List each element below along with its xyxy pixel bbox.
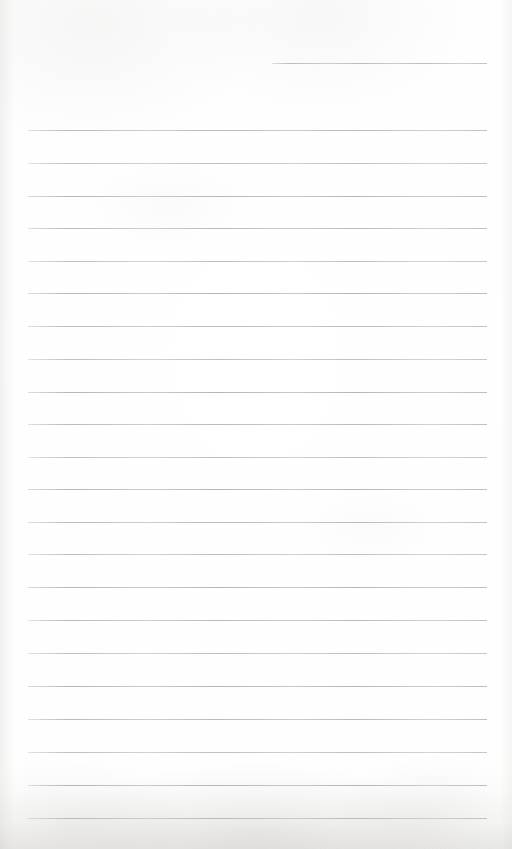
ruling-line: [28, 818, 487, 819]
scanned-page: [0, 0, 512, 849]
ruling-line: [28, 163, 487, 164]
ruling-line: [28, 719, 487, 720]
ruling-line: [28, 686, 487, 687]
ruling-line: [28, 326, 487, 327]
ruling-line: [28, 228, 487, 229]
ruling-line: [28, 522, 487, 523]
ruling-line: [28, 752, 487, 753]
ruling-line: [28, 785, 487, 786]
ruling-line: [28, 261, 487, 262]
ruling-line: [28, 424, 487, 425]
ruling-line: [28, 620, 487, 621]
ruling-line: [28, 359, 487, 360]
ruling-line: [28, 587, 487, 588]
ruling-line: [272, 63, 487, 64]
ruling-line: [28, 130, 487, 131]
ruling-line: [28, 489, 487, 490]
ruling-line: [28, 653, 487, 654]
ruling-line: [28, 293, 487, 294]
ruling-line: [28, 457, 487, 458]
ruling-line: [28, 196, 487, 197]
ruling-line-group: [0, 0, 512, 849]
ruling-line: [28, 554, 487, 555]
ruling-line: [28, 392, 487, 393]
